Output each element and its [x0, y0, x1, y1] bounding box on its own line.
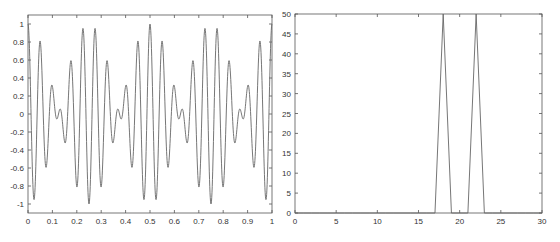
y-tick-label: -0.4 — [10, 146, 24, 155]
signal-line — [28, 24, 272, 204]
frequency-spectrum-plot: 05101520253005101520253035404550 — [282, 10, 547, 226]
x-tick-label: 0.5 — [144, 217, 156, 226]
x-tick-label: 5 — [334, 217, 339, 226]
y-tick-label: -0.2 — [10, 128, 24, 137]
y-tick-label: 0 — [20, 110, 25, 119]
x-tick-label: 0.6 — [169, 217, 181, 226]
y-tick-label: 0 — [287, 209, 292, 218]
y-tick-label: 10 — [282, 169, 291, 178]
x-tick-label: 20 — [455, 217, 464, 226]
axes-frame — [28, 15, 272, 213]
x-tick-label: 0.2 — [71, 217, 83, 226]
x-tick-label: 0.8 — [218, 217, 230, 226]
x-tick-label: 30 — [538, 217, 547, 226]
y-tick-label: -0.8 — [10, 182, 24, 191]
x-tick-label: 0.7 — [193, 217, 205, 226]
y-tick-label: 5 — [287, 189, 292, 198]
y-tick-label: -0.6 — [10, 164, 24, 173]
x-tick-label: 25 — [496, 217, 505, 226]
y-tick-label: 45 — [282, 30, 291, 39]
y-tick-label: 40 — [282, 50, 291, 59]
x-tick-label: 0.9 — [242, 217, 254, 226]
x-tick-label: 0.1 — [47, 217, 59, 226]
y-tick-label: 20 — [282, 129, 291, 138]
x-tick-label: 1 — [270, 217, 275, 226]
y-tick-label: 0.6 — [13, 56, 25, 65]
y-tick-label: 35 — [282, 70, 291, 79]
x-tick-label: 0 — [26, 217, 31, 226]
x-tick-label: 0.4 — [120, 217, 132, 226]
x-tick-label: 15 — [414, 217, 423, 226]
y-tick-label: 15 — [282, 149, 291, 158]
y-tick-label: 25 — [282, 110, 291, 119]
y-tick-label: -1 — [17, 200, 25, 209]
spectrum-line — [295, 14, 542, 213]
y-tick-label: 50 — [282, 10, 291, 19]
figure: 00.10.20.30.40.50.60.70.80.91-1-0.8-0.6-… — [0, 0, 560, 242]
x-tick-label: 0.3 — [96, 217, 108, 226]
y-tick-label: 0.8 — [13, 38, 25, 47]
y-tick-label: 30 — [282, 90, 291, 99]
y-tick-label: 1 — [20, 20, 25, 29]
x-tick-label: 0 — [293, 217, 298, 226]
y-tick-label: 0.2 — [13, 92, 25, 101]
y-tick-label: 0.4 — [13, 74, 25, 83]
axes-frame — [295, 14, 542, 213]
x-tick-label: 10 — [373, 217, 382, 226]
time-domain-plot: 00.10.20.30.40.50.60.70.80.91-1-0.8-0.6-… — [10, 15, 275, 226]
